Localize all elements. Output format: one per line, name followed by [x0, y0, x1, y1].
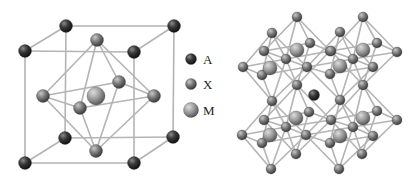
- atom-x-icon: [259, 46, 269, 56]
- atom-m-icon: [263, 61, 277, 75]
- atom-a-icon: [60, 20, 73, 33]
- bond-line: [97, 40, 154, 96]
- atom-x-icon: [326, 115, 336, 125]
- atom-x-icon: [348, 54, 358, 64]
- bond-line: [173, 26, 174, 137]
- legend-label-m: M: [203, 104, 215, 117]
- atom-m-icon: [263, 128, 277, 142]
- atom-x-icon: [237, 130, 247, 140]
- atom-x-icon: [368, 62, 378, 72]
- atom-a-icon: [168, 20, 181, 33]
- unit-cell: [19, 20, 181, 170]
- atom-x-icon: [292, 80, 302, 90]
- atom-a-icon: [128, 46, 141, 59]
- atom-x-icon: [358, 80, 368, 90]
- legend: [184, 54, 199, 118]
- atom-x-icon: [267, 28, 277, 38]
- atom-x-icon: [292, 12, 302, 22]
- bond-line: [134, 137, 173, 163]
- atom-x-icon: [304, 107, 314, 117]
- atom-m-icon: [87, 87, 105, 105]
- atom-x-icon: [302, 62, 312, 72]
- atom-x-icon: [325, 69, 335, 79]
- atom-x-icon: [358, 12, 368, 22]
- atom-x-icon: [291, 149, 301, 159]
- atom-x-icon: [372, 106, 382, 116]
- atom-a-icon: [167, 131, 180, 144]
- atom-x-icon: [148, 90, 161, 103]
- legend-swatches: [184, 54, 199, 118]
- atom-a-icon: [19, 45, 32, 58]
- atom-m-icon: [333, 59, 347, 73]
- atom-m-icon: [184, 103, 199, 118]
- bond-line: [97, 40, 119, 82]
- atom-x-icon: [348, 122, 358, 132]
- atom-x-icon: [368, 131, 378, 141]
- atom-x-icon: [335, 27, 345, 37]
- atom-x-icon: [186, 79, 197, 90]
- atom-x-icon: [326, 46, 336, 56]
- legend-label-a: A: [203, 53, 212, 66]
- atom-x-icon: [334, 164, 344, 174]
- bond-line: [25, 51, 134, 52]
- atom-x-icon: [301, 130, 311, 140]
- bond-line: [65, 26, 66, 138]
- bond-line: [25, 138, 65, 163]
- atom-m-icon: [356, 43, 370, 57]
- bond-line: [134, 26, 174, 52]
- atom-x-icon: [266, 164, 276, 174]
- bond-line: [25, 26, 66, 51]
- atom-x-icon: [392, 115, 402, 125]
- atom-x-icon: [259, 115, 269, 125]
- atom-a-icon: [19, 157, 32, 170]
- atom-m-icon: [290, 43, 304, 57]
- atom-x-icon: [238, 62, 248, 72]
- atom-x-icon: [281, 54, 291, 64]
- atom-x-icon: [37, 90, 50, 103]
- atom-a-icon: [186, 54, 197, 65]
- unit-cell-atoms: [19, 20, 181, 170]
- atom-x-icon: [281, 122, 291, 132]
- atom-x-icon: [74, 102, 87, 115]
- atom-x-icon: [335, 95, 345, 105]
- atom-x-icon: [91, 34, 104, 47]
- atom-m-icon: [289, 111, 303, 125]
- bond-line: [80, 108, 96, 151]
- octahedra-network: [237, 12, 402, 174]
- atom-m-icon: [333, 129, 347, 143]
- atom-x-icon: [325, 138, 335, 148]
- atom-x-icon: [90, 145, 103, 158]
- atom-x-icon: [113, 76, 126, 89]
- atom-x-icon: [267, 96, 277, 106]
- atom-a-icon: [59, 132, 72, 145]
- atom-x-icon: [357, 149, 367, 159]
- atom-m-icon: [356, 111, 370, 125]
- bond-line: [65, 137, 173, 138]
- atom-x-icon: [305, 38, 315, 48]
- atom-x-icon: [392, 47, 402, 57]
- atom-a-icon: [128, 157, 141, 170]
- atom-x-icon: [372, 38, 382, 48]
- perovskite-structure-figure: [0, 0, 420, 192]
- atom-a-icon: [309, 90, 320, 101]
- legend-label-x: X: [203, 78, 212, 91]
